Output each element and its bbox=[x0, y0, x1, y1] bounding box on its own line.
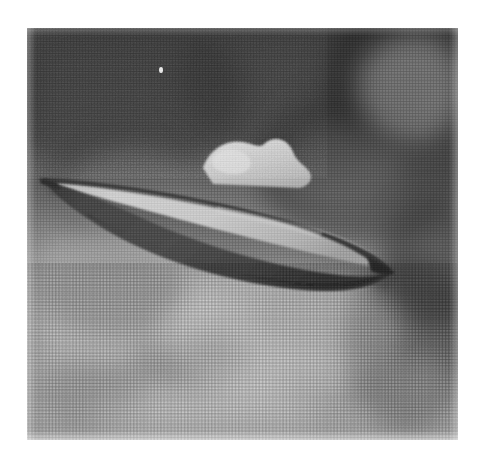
flying-saucer bbox=[27, 28, 458, 440]
craft-dome bbox=[203, 139, 311, 188]
ufo-photograph: unidentified flying object (flying sauce… bbox=[27, 28, 458, 440]
screenshot-root: unidentified flying object (flying sauce… bbox=[0, 0, 481, 459]
